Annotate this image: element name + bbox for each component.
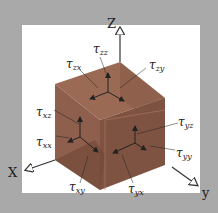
y-axis bbox=[172, 167, 197, 185]
stress-cube-diagram bbox=[0, 0, 218, 213]
label-tau-xy: τxy bbox=[69, 181, 85, 195]
label-tau-xz: τxz bbox=[36, 106, 51, 120]
label-tau-zx: τzx bbox=[66, 58, 81, 72]
cube bbox=[55, 62, 165, 190]
x-axis bbox=[26, 160, 55, 170]
label-tau-zy: τzy bbox=[149, 59, 164, 73]
z-axis-label: Z bbox=[107, 17, 116, 30]
label-tau-yy: τyy bbox=[176, 147, 192, 161]
y-axis-label: y bbox=[202, 186, 209, 199]
x-axis-label: X bbox=[8, 166, 17, 179]
label-tau-zz: τzz bbox=[93, 43, 108, 57]
label-tau-xx: τxx bbox=[36, 136, 52, 150]
label-tau-yz: τyz bbox=[178, 116, 193, 130]
label-tau-yx: τyx bbox=[128, 183, 144, 197]
